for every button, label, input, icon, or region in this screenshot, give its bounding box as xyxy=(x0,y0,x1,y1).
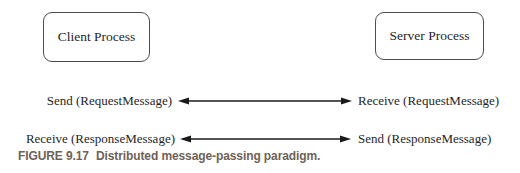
send-response-label: Send (ResponseMessage) xyxy=(358,131,491,147)
send-request-label: Send (RequestMessage) xyxy=(0,93,172,109)
server-process-label: Server Process xyxy=(390,28,470,44)
figure-canvas: Client Process Server Process Send (Requ… xyxy=(0,0,520,173)
figure-caption: FIGURE 9.17Distributed message-passing p… xyxy=(18,149,320,163)
double-arrow-icon xyxy=(178,96,352,106)
server-process-node: Server Process xyxy=(375,12,484,60)
receive-request-label: Receive (RequestMessage) xyxy=(358,93,499,109)
receive-response-label: Receive (ResponseMessage) xyxy=(0,131,175,147)
figure-caption-number: FIGURE 9.17 xyxy=(18,149,89,163)
client-process-node: Client Process xyxy=(43,12,150,62)
client-process-label: Client Process xyxy=(58,29,136,45)
double-arrow-icon xyxy=(180,134,351,144)
figure-caption-text: Distributed message-passing paradigm. xyxy=(96,149,320,163)
